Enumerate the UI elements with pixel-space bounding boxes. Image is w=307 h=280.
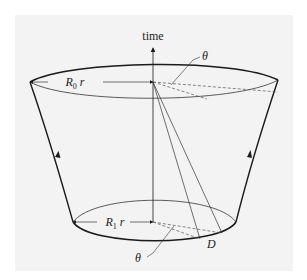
slant-line-2 — [153, 82, 222, 233]
bottom-theta-label: θ — [135, 251, 141, 265]
slant-line-1 — [153, 82, 200, 239]
left-worldline-arrow-icon — [55, 151, 61, 158]
bottom-ellipse-back — [73, 200, 236, 222]
bottom-dashed-line-2 — [153, 222, 200, 239]
left-worldline — [30, 82, 73, 222]
top-radius-label: R0 r — [64, 75, 84, 91]
bottom-radius-label: R1 r — [104, 215, 124, 231]
time-axis-label: time — [142, 29, 163, 43]
top-theta-leader — [171, 57, 200, 85]
spacetime-diagram: time R0 r θ R1 r θ D — [0, 0, 307, 280]
right-worldline — [236, 80, 278, 222]
bottom-dashed-line-1 — [153, 222, 222, 233]
right-worldline-arrow-icon — [247, 150, 252, 158]
point-d-label: D — [206, 237, 216, 251]
top-theta-label: θ — [202, 49, 208, 63]
